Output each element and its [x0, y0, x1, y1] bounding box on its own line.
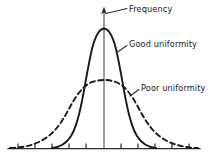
poor-uniformity-leader-line [130, 90, 139, 97]
good-uniformity-label: Good uniformity [129, 39, 197, 49]
distribution-chart: Frequency Good uniformity Poor uniformit… [0, 0, 208, 159]
good-uniformity-leader-line [118, 46, 128, 53]
poor-uniformity-label: Poor uniformity [141, 83, 206, 93]
figure-container: Frequency Good uniformity Poor uniformit… [0, 0, 208, 159]
frequency-leader-line [106, 9, 127, 14]
frequency-label: Frequency [129, 4, 172, 14]
